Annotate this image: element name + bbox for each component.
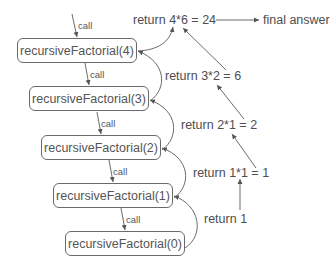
return-label-2: return 2*1 = 2 — [181, 118, 257, 132]
return-label-1: return 1*1 = 1 — [193, 166, 269, 180]
return-arrow-2x1-to-3x2 — [217, 85, 244, 119]
call-label: call — [90, 70, 104, 80]
return-arrow-3x2-to-4x6 — [183, 28, 226, 70]
box-label: recursiveFactorial(0) — [68, 237, 182, 251]
call-arrow-4-3 — [85, 63, 89, 85]
final-answer-label: final answer — [263, 13, 330, 27]
box-recursive-factorial-2: recursiveFactorial(2) — [41, 135, 161, 160]
return-label-3: return 3*2 = 6 — [165, 69, 241, 83]
return-label-0: return 1 — [204, 212, 247, 226]
box-label: recursiveFactorial(4) — [20, 44, 134, 58]
box-recursive-factorial-3: recursiveFactorial(3) — [29, 86, 149, 111]
box-recursive-factorial-0: recursiveFactorial(0) — [65, 231, 185, 256]
box-label: recursiveFactorial(3) — [32, 92, 146, 106]
call-label: call — [78, 21, 92, 31]
return-label-4: return 4*6 = 24 — [133, 13, 216, 27]
box-label: recursiveFactorial(1) — [56, 189, 170, 203]
return-arrow-1x1-to-2x1 — [232, 134, 256, 168]
return-curve-4-top — [138, 27, 173, 51]
box-label: recursiveFactorial(2) — [44, 141, 158, 155]
box-recursive-factorial-1: recursiveFactorial(1) — [53, 183, 173, 208]
box-recursive-factorial-4: recursiveFactorial(4) — [17, 38, 137, 63]
call-arrow-entry — [72, 14, 77, 37]
call-label: call — [126, 215, 140, 225]
call-arrow-1-0 — [121, 208, 125, 230]
call-label: call — [101, 119, 115, 129]
call-label: call — [113, 167, 127, 177]
